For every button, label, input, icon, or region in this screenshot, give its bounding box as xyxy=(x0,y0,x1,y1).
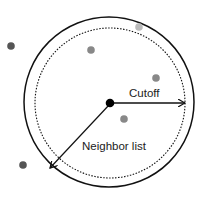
particle xyxy=(152,74,160,82)
neighbor-list-label: Neighbor list xyxy=(82,140,146,152)
diagram-canvas xyxy=(0,0,205,201)
neighbor-list-arrow xyxy=(50,105,109,168)
particle xyxy=(19,161,27,169)
particle xyxy=(135,23,143,31)
particle xyxy=(120,115,128,123)
particle xyxy=(87,46,95,54)
cutoff-label: Cutoff xyxy=(129,87,159,99)
center-particle xyxy=(106,99,115,108)
neighbor-list-diagram: Cutoff Neighbor list xyxy=(0,0,205,201)
particle xyxy=(7,42,15,50)
